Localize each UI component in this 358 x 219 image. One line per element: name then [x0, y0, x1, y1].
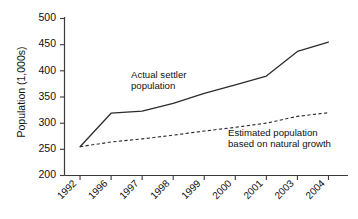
annotation-actual-line1: Actual settler — [131, 69, 187, 80]
x-label-2004: 2004 — [303, 177, 327, 201]
y-label-500: 500 — [38, 11, 56, 23]
x-axis-labels: 199219961997199819992000200120032004 — [55, 177, 327, 201]
x-label-2000: 2000 — [210, 177, 234, 201]
y-label-350: 350 — [38, 90, 56, 102]
y-label-300: 300 — [38, 116, 56, 128]
x-label-2003: 2003 — [272, 177, 296, 201]
y-label-450: 450 — [38, 37, 56, 49]
annotation-estimated-population: Estimated population based on natural gr… — [228, 127, 331, 149]
x-label-1992: 1992 — [55, 177, 79, 201]
y-label-250: 250 — [38, 142, 56, 154]
chart-container: Population (1,000s) 500 450 400 350 300 … — [0, 0, 358, 219]
y-axis-labels: 500 450 400 350 300 250 200 — [38, 11, 56, 180]
x-label-1999: 1999 — [179, 177, 203, 201]
annotation-actual-line2: population — [131, 80, 175, 91]
annotation-estimated-line2: based on natural growth — [228, 138, 331, 149]
x-axis-ticks — [80, 176, 328, 181]
annotation-estimated-line1: Estimated population — [228, 127, 318, 138]
line-chart: Population (1,000s) 500 450 400 350 300 … — [0, 0, 358, 219]
y-axis-title: Population (1,000s) — [15, 46, 27, 137]
x-label-1996: 1996 — [86, 177, 110, 201]
x-label-1998: 1998 — [148, 177, 172, 201]
annotation-actual-settler-population: Actual settler population — [131, 69, 187, 91]
y-label-400: 400 — [38, 64, 56, 76]
x-label-1997: 1997 — [117, 177, 141, 201]
y-label-200: 200 — [38, 168, 56, 180]
y-axis-title-group: Population (1,000s) — [15, 46, 27, 137]
y-axis-ticks — [60, 19, 65, 176]
x-label-2001: 2001 — [241, 177, 265, 201]
